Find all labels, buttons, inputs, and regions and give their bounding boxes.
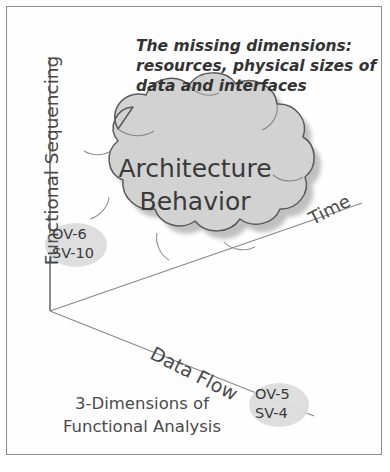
badge-dataflow-label: OV-5 SV-4 [255,385,290,423]
diagram-page: The missing dimensions: resources, physi… [0,0,390,472]
badge-sequencing-label: OV-6 SV-10 [52,225,94,263]
figure-caption: 3-Dimensions of Functional Analysis [58,392,226,438]
cloud-label: Architecture Behavior [105,152,285,218]
missing-dimensions-note: The missing dimensions: resources, physi… [136,36,376,96]
